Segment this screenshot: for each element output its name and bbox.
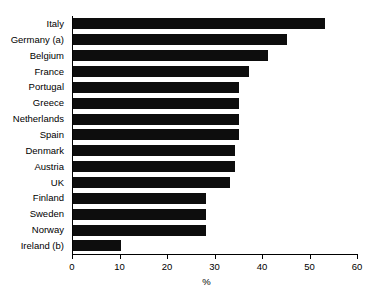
category-label: Sweden xyxy=(0,206,68,222)
bar-chart: ItalyGermany (a)BelgiumFrancePortugalGre… xyxy=(0,0,373,300)
x-axis: 0102030405060 xyxy=(72,254,357,255)
bar-row xyxy=(73,32,357,48)
bar xyxy=(73,50,268,61)
x-tick xyxy=(215,254,216,259)
x-tick-label: 30 xyxy=(200,261,230,272)
x-tick xyxy=(72,254,73,259)
x-tick-label: 20 xyxy=(152,261,182,272)
x-tick-label: 60 xyxy=(342,261,372,272)
category-label: Germany (a) xyxy=(0,32,68,48)
bar xyxy=(73,161,235,172)
x-tick xyxy=(120,254,121,259)
category-axis: ItalyGermany (a)BelgiumFrancePortugalGre… xyxy=(0,16,68,254)
plot-area xyxy=(72,16,357,254)
category-label: Austria xyxy=(0,159,68,175)
x-tick xyxy=(262,254,263,259)
bar xyxy=(73,98,239,109)
category-label: Netherlands xyxy=(0,111,68,127)
bar-row xyxy=(73,238,357,254)
x-tick xyxy=(167,254,168,259)
bar-row xyxy=(73,79,357,95)
bar-row xyxy=(73,64,357,80)
bar-row xyxy=(73,206,357,222)
bar xyxy=(73,34,287,45)
bar xyxy=(73,225,206,236)
category-label: Denmark xyxy=(0,143,68,159)
bar xyxy=(73,240,121,251)
category-label: UK xyxy=(0,175,68,191)
category-label: Norway xyxy=(0,222,68,238)
x-axis-title: % xyxy=(0,276,373,287)
bar-row xyxy=(73,222,357,238)
category-label: Finland xyxy=(0,190,68,206)
category-label: Ireland (b) xyxy=(0,238,68,254)
bar-row xyxy=(73,127,357,143)
bar-row xyxy=(73,16,357,32)
x-tick xyxy=(357,254,358,259)
bar xyxy=(73,177,230,188)
bar-row xyxy=(73,95,357,111)
bar xyxy=(73,145,235,156)
bars-layer xyxy=(73,16,357,254)
bar xyxy=(73,66,249,77)
bar-row xyxy=(73,48,357,64)
category-label: Belgium xyxy=(0,48,68,64)
x-tick-label: 40 xyxy=(247,261,277,272)
category-label: Greece xyxy=(0,95,68,111)
x-tick xyxy=(310,254,311,259)
bar xyxy=(73,209,206,220)
bar-row xyxy=(73,159,357,175)
bar-row xyxy=(73,190,357,206)
x-tick-label: 0 xyxy=(57,261,87,272)
bar xyxy=(73,114,239,125)
bar xyxy=(73,18,325,29)
category-label: Spain xyxy=(0,127,68,143)
x-tick-label: 50 xyxy=(295,261,325,272)
bar xyxy=(73,82,239,93)
bar-row xyxy=(73,111,357,127)
bar-row xyxy=(73,143,357,159)
bar xyxy=(73,193,206,204)
bar-row xyxy=(73,175,357,191)
category-label: Portugal xyxy=(0,79,68,95)
category-label: France xyxy=(0,64,68,80)
x-tick-label: 10 xyxy=(105,261,135,272)
category-label: Italy xyxy=(0,16,68,32)
bar xyxy=(73,129,239,140)
